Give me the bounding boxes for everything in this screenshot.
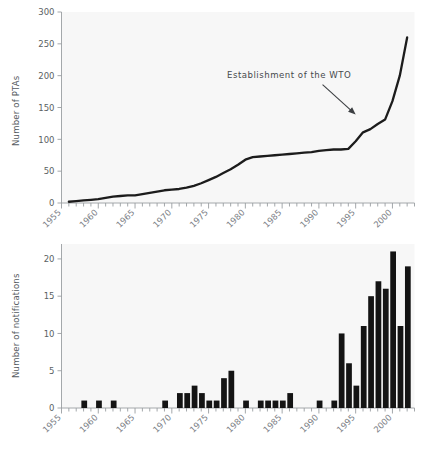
- bar: [206, 401, 212, 408]
- bar: [368, 296, 374, 408]
- bar: [258, 401, 264, 408]
- x-tick-label: 1955: [41, 207, 63, 229]
- bar: [265, 401, 271, 408]
- bar: [346, 363, 352, 408]
- x-tick-label: 1960: [77, 412, 99, 434]
- bar: [273, 401, 279, 408]
- bar: [221, 378, 227, 408]
- y-tick-label: 300: [38, 7, 54, 17]
- bar: [177, 393, 183, 408]
- bar: [162, 401, 168, 408]
- y-tick-label: 15: [44, 291, 55, 301]
- bar: [317, 401, 323, 408]
- bar-chart-svg: 0510152019551960196519701975198019851990…: [0, 232, 429, 459]
- bar: [214, 401, 220, 408]
- x-tick-label: 1965: [114, 207, 136, 229]
- figure-container: Number of PTAs 0501001502002503001955196…: [0, 0, 429, 459]
- x-tick-label: 1990: [298, 412, 320, 434]
- x-tick-label: 1970: [151, 207, 173, 229]
- bar: [228, 371, 234, 408]
- x-tick-label: 1985: [261, 412, 283, 434]
- chart-panel-ptas: Number of PTAs 0501001502002503001955196…: [0, 0, 429, 232]
- y-tick-label: 200: [38, 71, 54, 81]
- y-tick-label: 0: [49, 403, 54, 413]
- bar: [390, 251, 396, 408]
- x-tick-label: 1980: [224, 207, 246, 229]
- x-tick-label: 1975: [188, 412, 210, 434]
- bar: [184, 393, 190, 408]
- x-tick-label: 1990: [298, 207, 320, 229]
- y-tick-label: 50: [44, 166, 55, 176]
- bar: [398, 326, 404, 408]
- y-tick-label: 5: [49, 366, 54, 376]
- bar: [287, 393, 293, 408]
- y-tick-label: 100: [38, 135, 54, 145]
- bar: [199, 393, 205, 408]
- bar: [111, 401, 117, 408]
- y-tick-label: 150: [38, 103, 54, 113]
- x-tick-label: 1975: [188, 207, 210, 229]
- y-tick-label: 20: [44, 254, 55, 264]
- y-tick-label: 10: [44, 329, 55, 339]
- x-tick-label: 1955: [41, 412, 63, 434]
- line-chart-svg: 0501001502002503001955196019651970197519…: [0, 0, 429, 232]
- x-tick-label: 1995: [335, 207, 357, 229]
- bar: [192, 386, 198, 408]
- bar: [361, 326, 367, 408]
- x-tick-label: 2000: [371, 207, 393, 229]
- y-tick-label: 250: [38, 39, 54, 49]
- bar: [280, 401, 286, 408]
- bar: [383, 289, 389, 408]
- bar: [96, 401, 102, 408]
- x-tick-label: 1960: [77, 207, 99, 229]
- bar: [331, 401, 337, 408]
- x-tick-label: 1980: [224, 412, 246, 434]
- x-tick-label: 1985: [261, 207, 283, 229]
- bar: [353, 386, 359, 408]
- bar: [339, 333, 345, 408]
- bar: [243, 401, 249, 408]
- x-tick-label: 1995: [335, 412, 357, 434]
- y-tick-label: 0: [49, 198, 54, 208]
- bar: [376, 281, 382, 408]
- x-tick-label: 1965: [114, 412, 136, 434]
- x-tick-label: 1970: [151, 412, 173, 434]
- bar: [405, 266, 411, 408]
- annotation-label-wto: Establishment of the WTO: [227, 70, 351, 80]
- chart-panel-notifications: Number of notifications 0510152019551960…: [0, 232, 429, 459]
- bar: [81, 401, 87, 408]
- x-tick-label: 2000: [371, 412, 393, 434]
